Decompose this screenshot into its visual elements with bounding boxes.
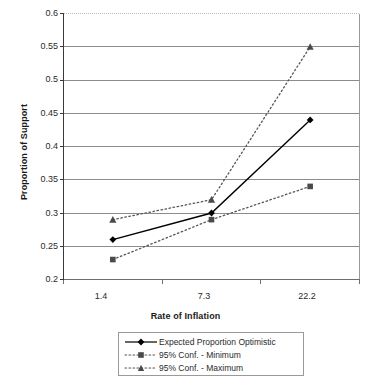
gridlines [64,47,360,247]
legend-item-min: 95% Conf. - Minimum [123,349,299,361]
inflation-support-line-chart: Proportion of Support Rate of Inflation … [0,0,371,381]
y-tick-label-0.6: 0.6 [28,8,58,19]
series-line [113,47,310,220]
data-point-square [110,257,116,263]
plot-background [64,14,360,280]
x-axis-title: Rate of Inflation [0,311,371,321]
x-tick-label-22.2: 22.2 [287,291,327,302]
x-axis-ticks [64,280,360,285]
x-tick-label-1.4: 1.4 [81,291,121,302]
data-point-square [209,217,215,223]
legend-key-diamond-solid [123,336,159,348]
x-tick-label-7.3: 7.3 [184,291,224,302]
y-tick-label-0.2: 0.2 [28,274,58,285]
legend-item-max: 95% Conf. - Maximum [123,362,299,374]
series-line [113,120,310,240]
data-point-diamond [208,210,215,217]
data-point-triangle [109,216,116,223]
y-tick-label-0.45: 0.45 [28,108,58,119]
y-tick-label-0.35: 0.35 [28,174,58,185]
y-tick-label-0.3: 0.3 [28,208,58,219]
legend-item-expected: Expected Proportion Optimistic [123,336,299,348]
legend-label-min: 95% Conf. - Minimum [159,349,241,361]
data-point-square [307,184,313,190]
y-tick-label-0.4: 0.4 [28,141,58,152]
chart-legend: Expected Proportion Optimistic 95% Conf.… [118,332,304,376]
data-point-triangle [307,43,314,50]
legend-key-square-dotted [123,349,159,361]
data-point-triangle [208,196,215,203]
series-95-conf-maximum [109,43,314,223]
data-point-diamond [307,117,314,124]
legend-label-max: 95% Conf. - Maximum [159,362,243,374]
y-tick-label-0.5: 0.5 [28,74,58,85]
series-line [113,186,310,259]
series-95-conf-minimum [110,184,313,263]
series-expected-proportion-optimistic [109,117,313,244]
legend-label-expected: Expected Proportion Optimistic [159,336,276,348]
y-axis-ticks [60,14,64,280]
y-tick-label-0.25: 0.25 [28,241,58,252]
y-tick-label-0.55: 0.55 [28,41,58,52]
plot-area [0,0,371,381]
legend-key-triangle-dotted [123,362,159,374]
data-point-diamond [109,236,116,243]
